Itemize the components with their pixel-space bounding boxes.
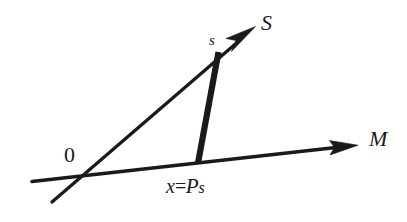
label-projection-equals: = xyxy=(175,175,186,197)
label-projection-operator: P xyxy=(186,174,199,198)
projection-diagram: S s M 0 x=Ps xyxy=(0,0,407,222)
label-point-s: s xyxy=(209,33,215,48)
label-projection-x-equals-ps: x=Ps xyxy=(166,176,205,197)
label-ray-s-axis: S xyxy=(261,12,272,34)
label-origin: 0 xyxy=(64,144,75,166)
label-projection-operand: s xyxy=(199,179,205,196)
label-projection-x: x xyxy=(166,175,175,197)
label-ray-m-axis: M xyxy=(369,128,387,150)
